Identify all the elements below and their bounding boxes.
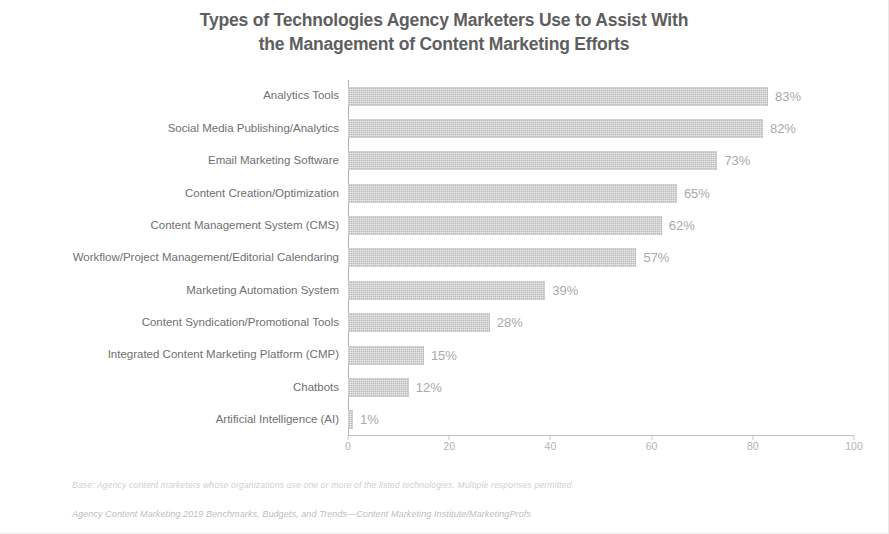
- x-tick-label: 20: [443, 440, 455, 452]
- bar-value-label: 12%: [416, 381, 442, 394]
- bar-row: Marketing Automation System39%: [348, 274, 854, 306]
- bar: [348, 378, 409, 397]
- footnote-source: Agency Content Marketing 2019 Benchmarks…: [72, 509, 531, 519]
- bar: [348, 87, 768, 106]
- category-label: Content Syndication/Promotional Tools: [142, 317, 339, 329]
- x-tick-label: 40: [545, 440, 557, 452]
- category-label: Email Marketing Software: [208, 155, 339, 167]
- bar: [348, 281, 545, 300]
- bar-value-label: 15%: [431, 349, 457, 362]
- category-label: Content Management System (CMS): [150, 220, 339, 232]
- bar-row: Workflow/Project Management/Editorial Ca…: [348, 242, 854, 274]
- bar-row: Integrated Content Marketing Platform (C…: [348, 339, 854, 371]
- x-tick-label: 0: [345, 440, 351, 452]
- category-label: Analytics Tools: [263, 90, 339, 102]
- bar-value-label: 57%: [643, 251, 669, 264]
- bar: [348, 119, 763, 138]
- chart-title-line-2: the Management of Content Marketing Effo…: [120, 32, 768, 56]
- bar-value-label: 73%: [724, 154, 750, 167]
- bar: [348, 410, 353, 429]
- bar-row: Email Marketing Software73%: [348, 145, 854, 177]
- bar-row: Content Management System (CMS)62%: [348, 209, 854, 241]
- category-label: Content Creation/Optimization: [185, 188, 339, 200]
- bar: [348, 151, 717, 170]
- bar-value-label: 82%: [770, 122, 796, 135]
- bar: [348, 184, 677, 203]
- bar-row: Content Syndication/Promotional Tools28%: [348, 307, 854, 339]
- category-label: Social Media Publishing/Analytics: [168, 123, 339, 135]
- chart-page: Types of Technologies Agency Marketers U…: [0, 0, 889, 534]
- category-label: Integrated Content Marketing Platform (C…: [108, 349, 339, 361]
- category-label: Chatbots: [293, 382, 339, 394]
- bar-value-label: 39%: [552, 284, 578, 297]
- category-label: Artificial Intelligence (AI): [216, 414, 339, 426]
- x-axis-ticks: 020406080100: [348, 436, 854, 458]
- bar-row: Content Creation/Optimization65%: [348, 177, 854, 209]
- footnote-base: Base: Agency content marketers whose org…: [72, 480, 574, 490]
- bar-row: Analytics Tools83%: [348, 80, 854, 112]
- category-label: Marketing Automation System: [186, 285, 339, 297]
- bar-row: Chatbots12%: [348, 371, 854, 403]
- bar: [348, 216, 662, 235]
- bar-row: Social Media Publishing/Analytics82%: [348, 112, 854, 144]
- chart-title-line-1: Types of Technologies Agency Marketers U…: [120, 8, 768, 32]
- x-tick-label: 100: [845, 440, 863, 452]
- bar: [348, 248, 636, 267]
- bar-value-label: 62%: [669, 219, 695, 232]
- x-tick-label: 80: [747, 440, 759, 452]
- bar: [348, 346, 424, 365]
- bar-value-label: 83%: [775, 90, 801, 103]
- bar-value-label: 1%: [360, 413, 379, 426]
- plot-area: Analytics Tools83%Social Media Publishin…: [348, 80, 854, 436]
- bar-value-label: 65%: [684, 187, 710, 200]
- bar-row: Artificial Intelligence (AI)1%: [348, 404, 854, 436]
- x-tick-label: 60: [646, 440, 658, 452]
- chart-title: Types of Technologies Agency Marketers U…: [0, 8, 888, 56]
- bar: [348, 313, 490, 332]
- category-label: Workflow/Project Management/Editorial Ca…: [73, 252, 339, 264]
- bar-value-label: 28%: [497, 316, 523, 329]
